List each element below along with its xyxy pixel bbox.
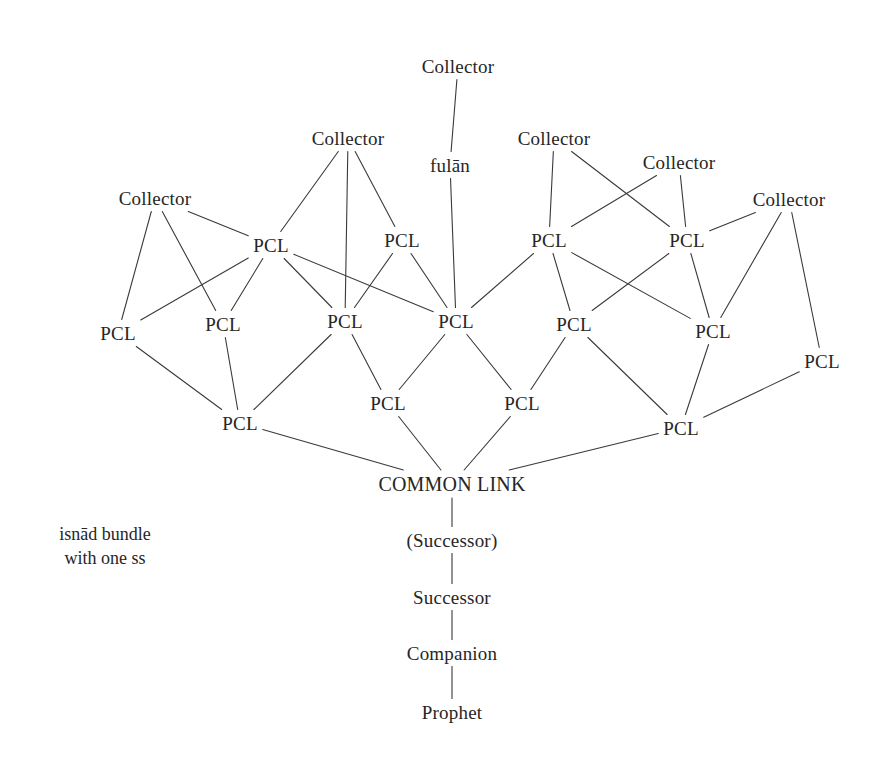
edge-p_a4-to-p_b6 xyxy=(691,254,709,318)
node-p_c3: PCL xyxy=(504,394,539,413)
edge-p_a2-to-p_b4 xyxy=(411,254,447,308)
edge-c3-to-p_a3 xyxy=(550,152,554,227)
edge-c4-to-p_a4 xyxy=(680,176,685,227)
node-c1: Collector xyxy=(119,189,192,208)
edge-c1-to-p_b1 xyxy=(122,212,152,320)
node-p_c1: PCL xyxy=(222,414,257,433)
edge-p_a3-to-p_b5 xyxy=(553,254,570,311)
edge-p_a1-to-p_b1 xyxy=(141,258,249,320)
node-p_a3: PCL xyxy=(531,231,566,250)
node-p_b5: PCL xyxy=(556,315,591,334)
node-cl: COMMON LINK xyxy=(378,474,525,494)
node-c4: Collector xyxy=(643,153,716,172)
node-p_a4: PCL xyxy=(669,231,704,250)
node-p_b4: PCL xyxy=(438,312,473,331)
node-fulan: fulān xyxy=(430,156,470,175)
edge-p_a3-to-p_b4 xyxy=(472,254,534,308)
node-c5: Collector xyxy=(753,190,826,209)
edge-p_a3-to-p_b6 xyxy=(572,253,691,319)
node-p_b6: PCL xyxy=(695,322,730,341)
edge-c1-to-p_a1 xyxy=(188,212,248,236)
isnad-bundle-diagram: CollectorCollectorCollectorCollectorColl… xyxy=(0,0,893,758)
edge-c5-to-p_b7 xyxy=(792,213,820,348)
node-succ_p: (Successor) xyxy=(407,531,498,550)
node-p_b1: PCL xyxy=(100,324,135,343)
node-comp: Companion xyxy=(407,644,497,663)
edge-c4-to-p_a3 xyxy=(572,176,657,227)
node-p_b2: PCL xyxy=(205,315,240,334)
edge-c_top-to-fulan xyxy=(451,80,457,152)
node-p_b3: PCL xyxy=(327,312,362,331)
edge-p_c2-to-cl xyxy=(399,417,441,471)
node-c3: Collector xyxy=(518,129,591,148)
edge-c1-to-p_b2 xyxy=(162,212,215,311)
edge-c2-to-p_a2 xyxy=(355,152,395,227)
diagram-caption: isnād bundle with one ss xyxy=(59,522,151,571)
edge-p_b2-to-p_c1 xyxy=(225,338,237,410)
edge-p_a4-to-p_b5 xyxy=(592,254,669,311)
edge-p_b4-to-p_c2 xyxy=(399,335,445,390)
edge-p_c3-to-cl xyxy=(464,417,510,471)
node-c2: Collector xyxy=(312,129,385,148)
edge-c2-to-p_b3 xyxy=(345,152,348,308)
node-succ: Successor xyxy=(413,588,491,607)
edge-p_a1-to-p_b2 xyxy=(231,259,263,311)
edge-c5-to-p_b6 xyxy=(721,213,781,318)
edge-p_a1-to-p_b3 xyxy=(284,259,332,308)
node-c_top: Collector xyxy=(422,57,495,76)
node-p_c2: PCL xyxy=(370,394,405,413)
edge-p_b6-to-p_c4 xyxy=(685,345,708,415)
node-p_c4: PCL xyxy=(663,419,698,438)
edge-p_b4-to-p_c3 xyxy=(467,335,511,390)
node-proph: Prophet xyxy=(422,703,483,722)
edge-p_b1-to-p_c1 xyxy=(136,347,221,410)
edge-p_b3-to-p_c1 xyxy=(254,335,331,410)
edge-p_c4-to-cl xyxy=(509,434,658,470)
edge-p_b5-to-p_c4 xyxy=(588,338,667,415)
edge-p_b7-to-p_c4 xyxy=(704,372,800,417)
edge-fulan-to-p_b4 xyxy=(451,179,456,308)
node-p_a2: PCL xyxy=(384,231,419,250)
node-p_b7: PCL xyxy=(804,352,839,371)
edge-p_a2-to-p_b3 xyxy=(355,254,393,308)
edge-c2-to-p_a1 xyxy=(281,152,339,232)
edge-p_b3-to-p_c2 xyxy=(352,335,381,390)
edge-p_a1-to-p_b4 xyxy=(294,254,434,311)
edge-c5-to-p_a4 xyxy=(710,213,756,231)
node-p_a1: PCL xyxy=(253,236,288,255)
edge-p_b5-to-p_c3 xyxy=(531,338,565,390)
edge-p_c1-to-cl xyxy=(263,430,404,470)
